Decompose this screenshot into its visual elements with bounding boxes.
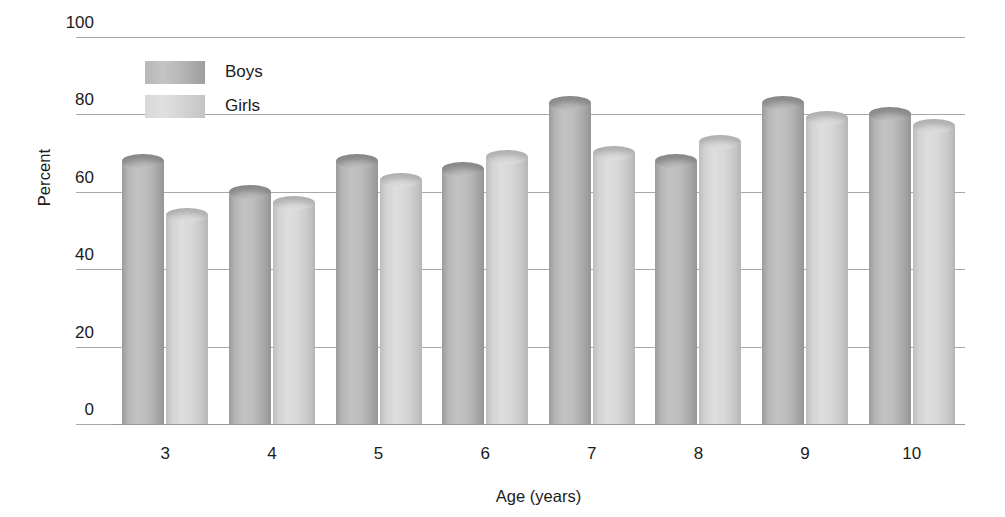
bar-body <box>806 118 848 424</box>
bar-chart: Percent Age (years) 020406080100 3456789… <box>0 0 1005 517</box>
legend-swatch-boys-icon <box>145 61 205 84</box>
bar-girls-age-7 <box>593 146 635 424</box>
bar-girls-age-9 <box>806 111 848 424</box>
y-tick-stub-40 <box>76 269 112 270</box>
bar-body <box>593 153 635 424</box>
y-tick-label-20: 20 <box>42 323 94 343</box>
bar-boys-age-6 <box>442 162 484 424</box>
bar-boys-age-7 <box>549 96 591 424</box>
bar-cap <box>486 150 528 164</box>
bar-body <box>166 215 208 424</box>
bar-cap <box>913 119 955 133</box>
y-tick-label-80: 80 <box>42 90 94 110</box>
x-tick-label-5: 5 <box>374 444 383 464</box>
x-tick-label-6: 6 <box>480 444 489 464</box>
bar-body <box>913 126 955 424</box>
bar-cap <box>655 154 697 168</box>
y-tick-stub-60 <box>76 192 112 193</box>
bar-boys-age-8 <box>655 154 697 424</box>
legend: Boys Girls <box>145 55 263 123</box>
bar-body <box>273 203 315 424</box>
bar-body <box>229 192 271 424</box>
y-tick-label-0: 0 <box>42 400 94 420</box>
x-tick-label-3: 3 <box>161 444 170 464</box>
bar-cap <box>229 185 271 199</box>
y-tick-stub-20 <box>76 347 112 348</box>
legend-item-girls: Girls <box>145 89 263 123</box>
bar-boys-age-9 <box>762 96 804 424</box>
y-tick-label-100: 100 <box>42 13 94 33</box>
legend-label-girls: Girls <box>225 96 260 116</box>
bar-cap <box>336 154 378 168</box>
bar-body <box>380 180 422 424</box>
x-tick-label-7: 7 <box>587 444 596 464</box>
bar-girls-age-10 <box>913 119 955 424</box>
gridline-0 <box>112 424 965 425</box>
bar-boys-age-3 <box>122 154 164 424</box>
x-axis-title: Age (years) <box>112 487 965 506</box>
y-tick-stub-100 <box>76 37 112 38</box>
bar-cap <box>593 146 635 160</box>
bar-body <box>122 161 164 424</box>
x-tick-label-8: 8 <box>694 444 703 464</box>
bar-girls-age-6 <box>486 150 528 424</box>
bar-cap <box>699 135 741 149</box>
y-tick-stub-80 <box>76 114 112 115</box>
legend-item-boys: Boys <box>145 55 263 89</box>
legend-label-boys: Boys <box>225 62 263 82</box>
bar-boys-age-4 <box>229 185 271 424</box>
bar-cap <box>380 173 422 187</box>
bar-body <box>336 161 378 424</box>
bar-girls-age-4 <box>273 196 315 424</box>
x-tick-label-4: 4 <box>267 444 276 464</box>
bar-body <box>655 161 697 424</box>
bar-body <box>549 103 591 424</box>
bar-boys-age-5 <box>336 154 378 424</box>
bar-cap <box>549 96 591 110</box>
bar-girls-age-3 <box>166 208 208 424</box>
bar-girls-age-8 <box>699 135 741 425</box>
x-tick-label-9: 9 <box>800 444 809 464</box>
bar-girls-age-5 <box>380 173 422 424</box>
bar-cap <box>122 154 164 168</box>
bar-cap <box>762 96 804 110</box>
bar-cap <box>442 162 484 176</box>
bar-body <box>442 169 484 424</box>
legend-swatch-girls-icon <box>145 95 205 118</box>
bar-body <box>699 142 741 425</box>
x-tick-label-10: 10 <box>902 444 921 464</box>
y-tick-label-60: 60 <box>42 168 94 188</box>
y-tick-label-40: 40 <box>42 245 94 265</box>
bar-body <box>486 157 528 424</box>
bar-body <box>869 114 911 424</box>
y-tick-stub-0 <box>76 424 112 425</box>
bar-body <box>762 103 804 424</box>
bar-boys-age-10 <box>869 107 911 424</box>
